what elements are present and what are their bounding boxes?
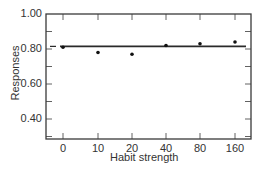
x-axis-title: Habit strength <box>110 152 178 163</box>
y-tick-label: 0.40 <box>2 113 42 124</box>
x-tick-label: 10 <box>83 143 113 154</box>
y-tick-label: 1.00 <box>2 8 42 19</box>
plot-frame <box>46 14 251 139</box>
data-point <box>198 42 202 46</box>
chart: 1.000.800.600.40010204080160 Habit stren… <box>0 0 263 173</box>
data-point <box>233 40 237 44</box>
x-tick-label: 160 <box>220 143 250 154</box>
data-point <box>96 51 100 55</box>
data-point <box>130 52 134 56</box>
data-point <box>164 44 168 48</box>
x-tick-label: 80 <box>185 143 215 154</box>
y-axis-title: Responses <box>10 51 21 101</box>
data-point <box>61 45 65 49</box>
x-tick-label: 0 <box>48 143 78 154</box>
